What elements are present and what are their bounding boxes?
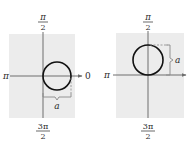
svg-text:2: 2	[40, 23, 45, 32]
polar-diagrams: a π 0 π 2 3π 2 a π π 2	[0, 0, 188, 146]
right-polar-graph: a π π 2 3π 2	[103, 12, 186, 141]
svg-text:π: π	[144, 12, 151, 22]
svg-text:2: 2	[145, 132, 150, 141]
svg-text:3π: 3π	[143, 122, 153, 131]
right-label-pi-over-2: π 2	[143, 12, 153, 32]
svg-text:2: 2	[40, 132, 45, 141]
right-label-a: a	[175, 55, 180, 65]
left-label-pi: π	[2, 71, 10, 81]
left-label-zero: 0	[85, 71, 91, 81]
svg-text:3π: 3π	[38, 122, 48, 131]
left-label-a: a	[54, 101, 59, 111]
right-label-pi: π	[103, 70, 111, 80]
left-polar-graph: a π 0 π 2 3π 2	[2, 12, 91, 141]
left-label-3pi-over-2: 3π 2	[36, 122, 50, 141]
svg-text:2: 2	[145, 23, 150, 32]
svg-text:π: π	[39, 12, 46, 22]
right-label-3pi-over-2: 3π 2	[141, 122, 155, 141]
left-label-pi-over-2: π 2	[38, 12, 48, 32]
